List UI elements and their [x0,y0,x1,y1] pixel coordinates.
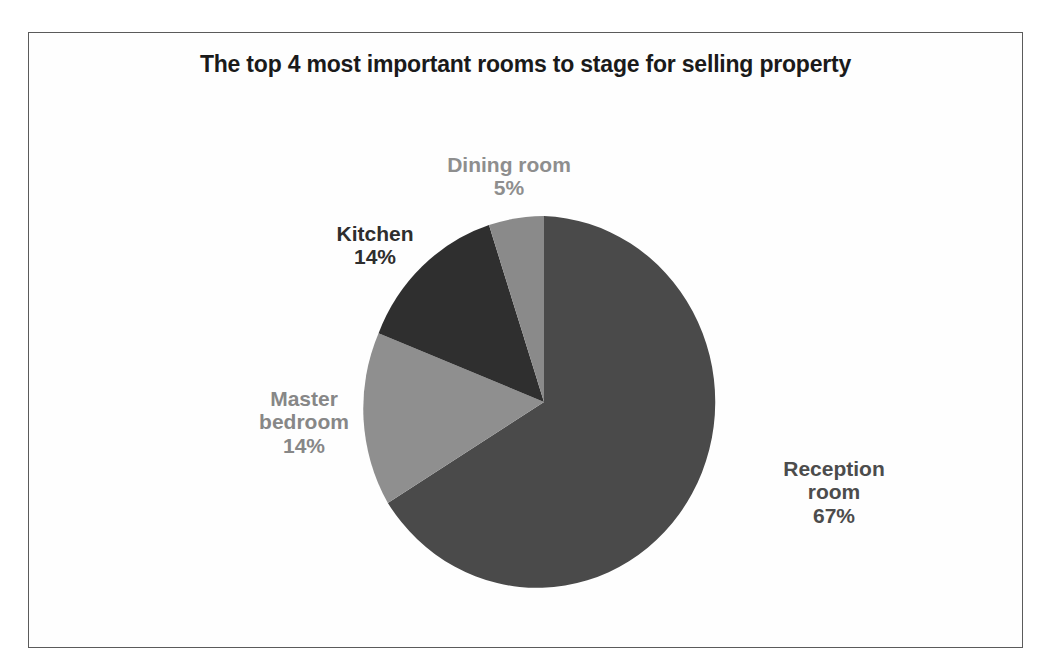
pie-label-dining-room-percent: 5% [399,176,619,200]
pie-label-reception-room-name: Reception room [783,457,885,504]
pie-label-reception-room: Reception room 67% [729,433,939,551]
pie-label-master-bedroom: Master bedroom 14% [209,363,399,481]
pie-label-master-bedroom-name: Master bedroom [259,387,349,434]
chart-page: The top 4 most important rooms to stage … [0,0,1045,666]
pie-label-kitchen-name: Kitchen [336,222,413,245]
pie-label-kitchen: Kitchen 14% [275,198,475,292]
pie-label-reception-room-percent: 67% [729,504,939,528]
chart-frame: The top 4 most important rooms to stage … [28,32,1023,648]
pie-chart-svg [29,33,1024,649]
pie-label-master-bedroom-percent: 14% [209,434,399,458]
pie-chart-area: Dining room 5% Kitchen 14% Master bedroo… [29,33,1024,649]
pie-label-kitchen-percent: 14% [275,245,475,269]
pie-label-dining-room-name: Dining room [447,153,571,176]
